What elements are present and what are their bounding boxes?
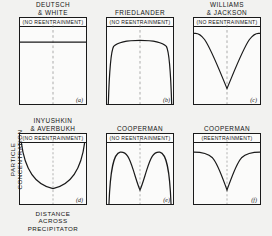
- panel-c-plot: (NO REENTRAINMENT) (c): [193, 17, 261, 105]
- panel-f-curve-svg: [194, 134, 260, 204]
- panel-a-curve-svg: [20, 18, 86, 104]
- panel-a-plot: (NO REENTRAINMENT) (a): [19, 17, 87, 105]
- panel-f-title: COOPERMAN: [191, 125, 263, 133]
- panel-d-curve-svg: [20, 134, 86, 204]
- panel-b-curve-svg: [107, 18, 173, 104]
- panel-d-plot: (NO REENTRAINMENT) (d): [19, 133, 87, 205]
- y-axis-label: PARTICLE CONCENTRATION: [9, 123, 24, 195]
- panel-f-letter: (f): [251, 197, 257, 203]
- panel-c-curve-svg: [194, 18, 260, 104]
- panel-c-letter: (c): [250, 97, 257, 103]
- panel-d: INYUSHKIN & AVERBUKH (NO REENTRAINMENT) …: [17, 116, 89, 222]
- panel-c: WILLIAMS & JACKSON (NO REENTRAINMENT) (c…: [191, 0, 263, 106]
- panel-e-plot: (NO REENTRAINMENT) (e): [106, 133, 174, 205]
- panel-c-title: WILLIAMS & JACKSON: [191, 1, 263, 16]
- figure-panel-grid: DEUTSCH & WHITE (NO REENTRAINMENT) (a) F…: [0, 0, 272, 236]
- panel-e-letter: (e): [163, 197, 170, 203]
- panel-f-plot: (REENTRAINMENT) (f): [193, 133, 261, 205]
- x-axis-label: DISTANCE ACROSS PRECIPITATOR: [17, 210, 89, 232]
- panel-f: COOPERMAN (REENTRAINMENT) (f): [191, 116, 263, 222]
- panel-d-title: INYUSHKIN & AVERBUKH: [17, 117, 89, 132]
- panel-b-plot: (NO REENTRAINMENT) (b): [106, 17, 174, 105]
- panel-e-title: COOPERMAN: [104, 125, 176, 133]
- panel-e-curve-svg: [107, 134, 173, 204]
- panel-b-title: FRIEDLANDER: [104, 9, 176, 17]
- panel-d-letter: (d): [76, 197, 83, 203]
- panel-a-title: DEUTSCH & WHITE: [17, 1, 89, 16]
- panel-a-letter: (a): [76, 97, 83, 103]
- panel-b: FRIEDLANDER (NO REENTRAINMENT) (b): [104, 0, 176, 106]
- panel-a: DEUTSCH & WHITE (NO REENTRAINMENT) (a): [17, 0, 89, 106]
- panel-b-letter: (b): [163, 97, 170, 103]
- panel-e: COOPERMAN (NO REENTRAINMENT) (e): [104, 116, 176, 222]
